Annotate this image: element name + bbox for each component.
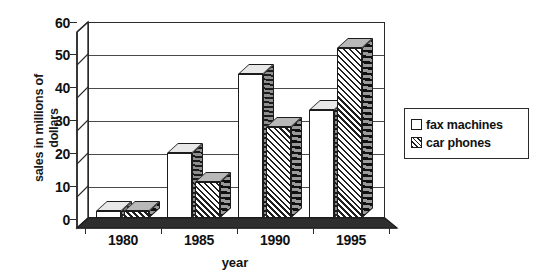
- bar-1985-car-phones: [195, 182, 220, 218]
- legend-label-fax-machines: fax machines: [426, 118, 503, 132]
- y-tick-mark-40: [70, 87, 77, 88]
- x-tick-mark-4: [389, 228, 390, 234]
- white-square-icon: [411, 119, 422, 130]
- x-tick-label-1990: 1990: [240, 232, 310, 248]
- bar-1995-car-phones: [337, 48, 362, 218]
- bar-front: [195, 182, 220, 218]
- y-tick-label-10: 10: [40, 180, 70, 194]
- y-tick-label-20: 20: [40, 147, 70, 161]
- y-tick-label-40: 40: [40, 81, 70, 95]
- bar-group-1995: [309, 0, 379, 229]
- bar-group-1985: [167, 0, 237, 229]
- y-tick-mark-0: [70, 219, 77, 220]
- chart-legend: fax machines car phones: [404, 108, 529, 159]
- bar-front: [337, 48, 362, 218]
- y-tick-mark-20: [70, 153, 77, 154]
- y-tick-mark-60: [70, 22, 77, 23]
- x-tick-label-1995: 1995: [316, 232, 386, 248]
- bar-group-1980: [96, 0, 166, 229]
- hatched-square-icon: [411, 137, 422, 148]
- x-tick-mark-0: [85, 228, 86, 234]
- bar-group-1990: [238, 0, 308, 229]
- bar-front: [167, 153, 192, 218]
- bar-side: [291, 117, 302, 218]
- x-tick-mark-2: [237, 228, 238, 234]
- y-tick-label-30: 30: [40, 114, 70, 128]
- y-tick-mark-50: [70, 54, 77, 55]
- bar-1995-fax-machines: [309, 110, 334, 218]
- bar-front: [309, 110, 334, 218]
- bar-1980-fax-machines: [96, 211, 121, 218]
- chart-screenshot: sales in millions of dollars 60 50 40 30…: [0, 0, 542, 279]
- legend-item-car-phones[interactable]: car phones: [411, 134, 523, 151]
- y-tick-label-50: 50: [40, 48, 70, 62]
- bar-1990-car-phones: [266, 127, 291, 218]
- y-tick-label-0: 0: [40, 213, 70, 227]
- bar-front: [124, 211, 149, 218]
- bar-1985-fax-machines: [167, 153, 192, 218]
- bar-front: [266, 127, 291, 218]
- legend-label-car-phones: car phones: [426, 136, 491, 150]
- bar-side: [362, 38, 373, 218]
- bar-front: [238, 74, 263, 218]
- bar-1990-fax-machines: [238, 74, 263, 218]
- bar-1980-car-phones: [124, 211, 149, 218]
- y-axis-tick-labels: 60 50 40 30 20 10 0: [38, 0, 70, 279]
- x-tick-label-1980: 1980: [88, 232, 158, 248]
- bar-front: [96, 211, 121, 218]
- x-tick-mark-3: [313, 228, 314, 234]
- y-tick-label-60: 60: [40, 16, 70, 30]
- x-axis-title: year: [175, 255, 295, 270]
- legend-item-fax-machines[interactable]: fax machines: [411, 116, 523, 133]
- y-tick-mark-30: [70, 120, 77, 121]
- x-tick-label-1985: 1985: [164, 232, 234, 248]
- x-tick-mark-1: [161, 228, 162, 234]
- y-tick-mark-10: [70, 186, 77, 187]
